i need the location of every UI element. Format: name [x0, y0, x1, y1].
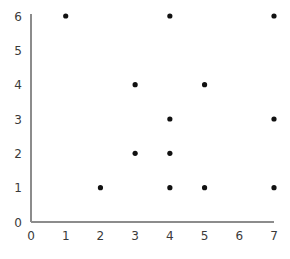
- data-point: [98, 185, 103, 190]
- y-tick-label: 1: [14, 181, 22, 195]
- x-tick-label: 7: [270, 229, 278, 243]
- data-point: [63, 13, 68, 18]
- data-point: [133, 151, 138, 156]
- y-tick-label: 0: [14, 216, 22, 230]
- data-point-series: [63, 13, 276, 190]
- axes: [31, 14, 274, 222]
- x-axis-tick-labels: 01234567: [27, 229, 278, 243]
- y-tick-label: 6: [14, 10, 22, 24]
- scatter-plot-canvas: 0123456 01234567: [0, 0, 290, 259]
- y-tick-label: 3: [14, 113, 22, 127]
- x-tick-label: 5: [201, 229, 209, 243]
- data-point: [202, 185, 207, 190]
- x-tick-label: 4: [166, 229, 174, 243]
- y-axis-tick-labels: 0123456: [14, 10, 22, 230]
- x-tick-label: 1: [62, 229, 70, 243]
- data-point: [271, 185, 276, 190]
- scatter-plot-figure: 0123456 01234567: [0, 0, 290, 259]
- y-tick-label: 2: [14, 147, 22, 161]
- x-tick-label: 2: [97, 229, 105, 243]
- y-tick-label: 5: [14, 44, 22, 58]
- x-tick-label: 6: [235, 229, 243, 243]
- data-point: [133, 82, 138, 87]
- data-point: [167, 151, 172, 156]
- data-point: [202, 82, 207, 87]
- data-point: [167, 116, 172, 121]
- y-tick-label: 4: [14, 78, 22, 92]
- data-point: [271, 13, 276, 18]
- data-point: [167, 13, 172, 18]
- data-point: [167, 185, 172, 190]
- x-tick-label: 3: [131, 229, 139, 243]
- x-tick-label: 0: [27, 229, 35, 243]
- data-point: [271, 116, 276, 121]
